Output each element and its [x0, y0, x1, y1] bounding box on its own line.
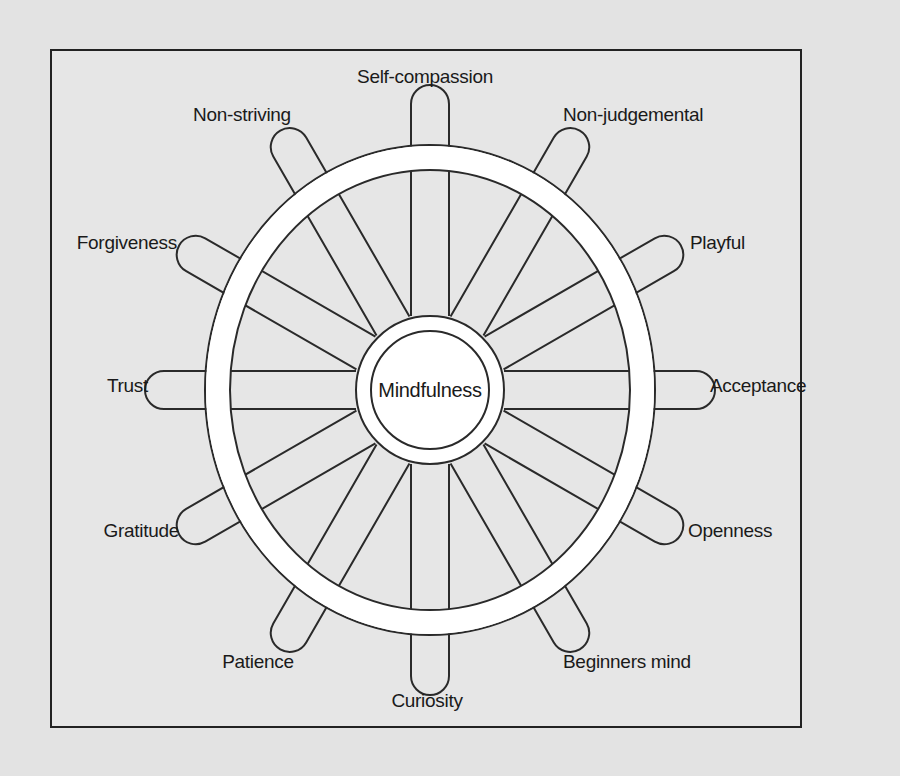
spoke-label-non-striving: Non-striving: [193, 104, 291, 125]
spoke-label-patience: Patience: [222, 651, 294, 672]
spoke-label-acceptance: Acceptance: [710, 375, 806, 396]
spoke-label-trust: Trust: [107, 375, 149, 396]
spoke-label-curiosity: Curiosity: [391, 690, 463, 711]
spoke-0: [504, 371, 715, 409]
spoke-9: [411, 85, 449, 316]
spoke-label-self-compassion: Self-compassion: [357, 66, 493, 87]
spoke-label-openness: Openness: [688, 520, 772, 541]
spoke-3: [411, 464, 449, 695]
mindfulness-wheel-diagram: Mindfulness Acceptance Openness Beginner…: [0, 0, 900, 776]
spoke-label-beginners-mind: Beginners mind: [563, 651, 691, 672]
spoke-6: [145, 371, 356, 409]
spoke-label-non-judgemental: Non-judgemental: [563, 104, 703, 125]
center-label: Mindfulness: [378, 379, 482, 401]
spoke-label-gratitude: Gratitude: [104, 520, 179, 541]
spoke-label-forgiveness: Forgiveness: [77, 232, 177, 253]
spoke-label-playful: Playful: [690, 232, 745, 253]
